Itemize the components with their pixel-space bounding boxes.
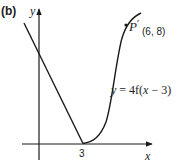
- x-tick-3: 3: [79, 148, 85, 159]
- y-axis-label: y: [29, 4, 36, 18]
- x-axis-label: x: [144, 149, 151, 162]
- curve-equation-label: y = 4f(x − 3): [110, 83, 171, 97]
- part-label: (b): [1, 4, 16, 18]
- linear-segment: [24, 23, 83, 144]
- transformed-graph-diagram: (b) y x 3 P′ (6, 8) y = 4f(x − 3): [0, 0, 181, 162]
- point-p-prime: [124, 23, 127, 26]
- point-p-prime-coords: (6, 8): [142, 26, 165, 37]
- point-p-prime-label: P′: [128, 18, 139, 34]
